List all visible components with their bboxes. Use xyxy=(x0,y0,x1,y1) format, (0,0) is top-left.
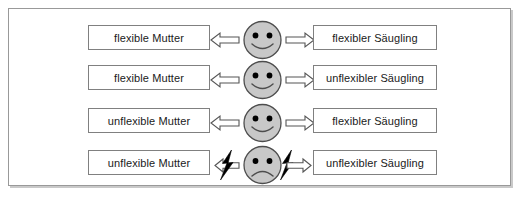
infant-label-box: flexibler Säugling xyxy=(313,25,437,50)
infant-label-box: unflexibler Säugling xyxy=(313,150,437,175)
arrow-right-icon xyxy=(285,71,315,89)
diagram-row: flexible Mutter flexibler Säugling xyxy=(0,20,525,60)
infant-label-box: unflexibler Säugling xyxy=(313,65,437,90)
diagram-figure: flexible Mutter flexibler Säugling flexi… xyxy=(0,0,525,200)
arrow-right-icon xyxy=(286,157,312,174)
arrow-left-icon xyxy=(210,31,240,49)
arrow-left-icon xyxy=(210,114,240,132)
diagram-row: unflexible Mutter xyxy=(0,145,525,185)
arrow-right-icon xyxy=(285,31,315,49)
smiling-face-icon xyxy=(239,20,286,60)
lightning-bolt-icon xyxy=(219,149,237,181)
mother-label-box: flexible Mutter xyxy=(88,25,210,50)
mother-label-box: flexible Mutter xyxy=(88,65,210,90)
arrow-right-icon xyxy=(285,114,315,132)
mother-label-box: unflexible Mutter xyxy=(88,150,210,175)
diagram-row: unflexible Mutter flexibler Säugling xyxy=(0,103,525,143)
arrow-left-icon xyxy=(210,71,240,89)
infant-label-box: flexibler Säugling xyxy=(313,108,437,133)
smiling-face-icon xyxy=(239,103,286,143)
mother-label-box: unflexible Mutter xyxy=(88,108,210,133)
diagram-row: flexible Mutter unflexibler Säugling xyxy=(0,60,525,100)
smiling-face-icon xyxy=(239,60,286,100)
